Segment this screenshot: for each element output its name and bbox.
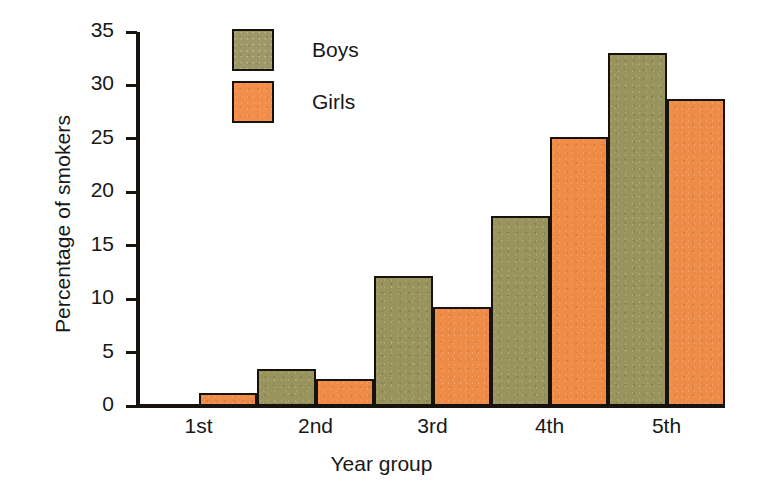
legend-label-boys: Boys: [312, 38, 359, 62]
bar-1st-girls: [199, 393, 258, 406]
y-axis-tick: [126, 191, 137, 194]
x-axis-tick-label-3rd: 3rd: [373, 414, 493, 438]
y-axis-tick-label: 10: [62, 285, 114, 309]
y-axis-tick-label: 5: [62, 339, 114, 363]
bar-group: [374, 32, 491, 406]
bar-4th-girls: [550, 137, 609, 406]
y-axis-tick: [126, 351, 137, 354]
bar-5th-boys: [608, 53, 667, 406]
x-axis-title: Year group: [0, 452, 763, 476]
x-axis-tick-label-2nd: 2nd: [256, 414, 376, 438]
legend: Boys Girls: [232, 24, 359, 128]
bar-2nd-girls: [316, 379, 375, 406]
y-axis-tick: [126, 405, 137, 408]
legend-swatch-boys-icon: [232, 29, 274, 71]
y-axis-tick: [126, 31, 137, 34]
y-axis-tick-label: 0: [62, 392, 114, 416]
x-axis-tick-label-5th: 5th: [607, 414, 727, 438]
y-axis-tick: [126, 137, 137, 140]
bar-2nd-boys: [257, 369, 316, 406]
legend-label-girls: Girls: [312, 90, 355, 114]
legend-swatch-girls-icon: [232, 81, 274, 123]
legend-item-boys: Boys: [232, 24, 359, 76]
y-axis-tick-label: 25: [62, 125, 114, 149]
plot-area: [140, 32, 725, 406]
legend-item-girls: Girls: [232, 76, 359, 128]
y-axis-tick-label: 20: [62, 178, 114, 202]
y-axis-tick: [126, 298, 137, 301]
y-axis-tick-label: 35: [62, 18, 114, 42]
bar-4th-boys: [491, 216, 550, 406]
y-axis-tick: [126, 84, 137, 87]
x-axis-tick-label-1st: 1st: [139, 414, 259, 438]
bar-chart: Percentage of smokers 05101520253035 1st…: [0, 0, 763, 496]
y-axis-tick: [126, 244, 137, 247]
bar-3rd-girls: [433, 307, 492, 406]
bar-3rd-boys: [374, 276, 433, 406]
x-axis-tick-label-4th: 4th: [490, 414, 610, 438]
bar-5th-girls: [667, 99, 726, 406]
bar-group: [608, 32, 725, 406]
y-axis-tick-label: 15: [62, 232, 114, 256]
bar-group: [491, 32, 608, 406]
y-axis-tick-label: 30: [62, 71, 114, 95]
